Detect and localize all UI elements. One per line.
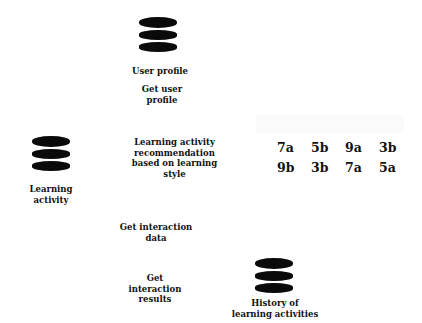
code-cell: 7a (345, 160, 379, 180)
codes-row: 7a 5b 9a 3b (277, 140, 413, 160)
get-interaction-results-label: Get interaction results (118, 273, 192, 305)
code-cell: 3b (379, 140, 413, 160)
user-profile-label: User profile (118, 66, 202, 77)
codes-row: 9b 3b 7a 5a (277, 160, 413, 180)
history-database-icon (255, 258, 293, 295)
code-cell: 5b (311, 140, 345, 160)
get-interaction-data-label: Get interaction data (112, 222, 200, 243)
code-cell: 9a (345, 140, 379, 160)
get-user-profile-label: Get user profile (120, 84, 204, 105)
code-cell: 9b (277, 160, 311, 180)
history-label: History of learning activities (230, 298, 320, 319)
learning-style-codes-grid: 7a 5b 9a 3b 9b 3b 7a 5a (277, 140, 413, 180)
faint-header-block (256, 115, 404, 133)
code-cell: 5a (379, 160, 413, 180)
code-cell: 7a (277, 140, 311, 160)
recommendation-label: Learning activity recommendation based o… (122, 137, 227, 179)
code-cell: 3b (311, 160, 345, 180)
learning-activity-database-icon (32, 136, 70, 173)
user-profile-database-icon (139, 17, 177, 54)
learning-activity-label: Learning activity (16, 184, 86, 205)
